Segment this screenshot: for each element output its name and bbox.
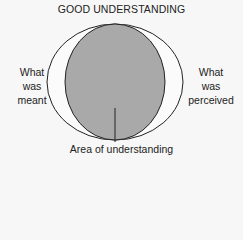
what-was-perceived-label: What was perceived [186, 65, 236, 107]
what-was-meant-label: What was meant [12, 65, 52, 107]
area-of-understanding-label: Area of understanding [0, 143, 243, 155]
